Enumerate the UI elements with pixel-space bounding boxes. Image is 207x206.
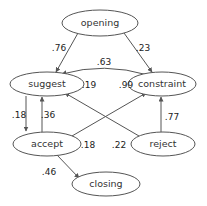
edge-weight-accept-constraint-upper: .99 (119, 80, 134, 90)
node-label-reject: reject (150, 138, 177, 149)
edge-weight-accept-closing: .46 (42, 167, 57, 177)
edge-weight-reject-constraint-lower: .22 (112, 140, 126, 150)
node-layer (10, 10, 196, 196)
edge-accept-closing (57, 155, 79, 178)
node-label-closing: closing (89, 178, 122, 189)
transition-diagram: opening suggest constraint accept reject… (0, 0, 207, 206)
edge-label-layer: .76 .23 .63 .19 .99 .18 .36 .77 .18 .22 … (12, 43, 179, 177)
edge-reject-suggest (65, 93, 139, 136)
edge-opening-constraint (124, 33, 152, 72)
edge-weight-accept-suggest: .36 (41, 110, 56, 120)
edge-weight-reject-constraint: .77 (165, 112, 179, 122)
edge-constraint-suggest-arc (62, 68, 148, 75)
node-label-constraint: constraint (138, 78, 186, 89)
edge-weight-suggest-accept: .18 (12, 110, 27, 120)
edge-weight-opening-constraint: .23 (136, 43, 150, 53)
edge-weight-opening-suggest: .76 (52, 43, 67, 53)
edge-opening-suggest (56, 33, 78, 72)
edge-weight-reject-suggest-upper: .19 (82, 80, 97, 90)
node-label-opening: opening (81, 17, 119, 28)
edge-weight-accept-suggest-lower: .18 (81, 140, 96, 150)
node-label-suggest: suggest (28, 78, 66, 89)
node-label-accept: accept (31, 138, 63, 149)
graph-canvas: opening suggest constraint accept reject… (0, 0, 207, 206)
edge-accept-constraint (72, 93, 146, 136)
edge-weight-constraint-suggest: .63 (97, 57, 111, 67)
